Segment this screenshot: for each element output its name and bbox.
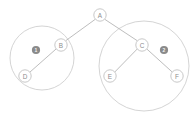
- tree-diagram: A B C D E F: [0, 0, 194, 113]
- tree-node-d[interactable]: D: [19, 70, 31, 82]
- tree-node-b[interactable]: B: [55, 39, 67, 51]
- tree-node-e[interactable]: E: [104, 70, 116, 82]
- tree-node-a[interactable]: A: [94, 9, 106, 21]
- nodes-layer: A B C D E F: [19, 9, 183, 82]
- tree-node-f[interactable]: F: [171, 70, 183, 82]
- group-circle-subtree-2: [99, 21, 189, 111]
- edge-c-e: [115, 49, 138, 72]
- edge-c-f: [147, 49, 173, 72]
- node-label-f: F: [175, 73, 179, 80]
- node-label-a: A: [98, 12, 103, 19]
- node-label-c: C: [140, 42, 145, 49]
- badge-subtree-2: 2: [160, 46, 168, 54]
- edge-a-b: [66, 19, 96, 41]
- node-label-d: D: [23, 73, 28, 80]
- badge-label-2: 2: [163, 47, 166, 53]
- node-label-b: B: [59, 42, 63, 49]
- group-circle-subtree-1: [10, 26, 74, 90]
- node-label-e: E: [108, 73, 112, 80]
- badge-subtree-1: 1: [32, 46, 40, 54]
- badge-label-1: 1: [35, 47, 38, 53]
- tree-node-c[interactable]: C: [136, 39, 148, 51]
- diagram-canvas: A B C D E F: [0, 0, 194, 113]
